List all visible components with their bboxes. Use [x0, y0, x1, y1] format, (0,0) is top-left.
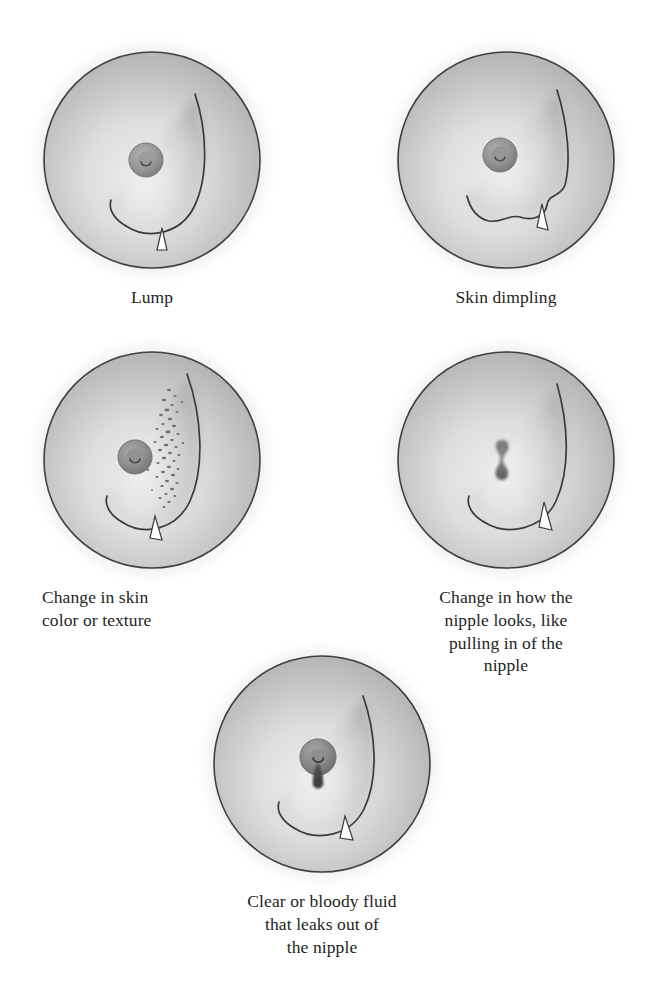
nipple-icon — [129, 143, 163, 177]
illustration-lump — [36, 44, 268, 276]
illustration-skin-dimpling — [390, 44, 622, 276]
breast-illustration-svg — [36, 344, 268, 576]
panel-skin-change: Change in skin color or texture — [36, 344, 268, 632]
illustration-nipple-discharge — [206, 648, 438, 880]
panel-caption: Change in skin color or texture — [36, 586, 268, 632]
nipple-icon — [483, 138, 517, 172]
panel-nipple-discharge: Clear or bloody fluid that leaks out of … — [206, 648, 438, 958]
panel-caption: Change in how the nipple looks, like pul… — [439, 586, 572, 677]
panel-caption: Skin dimpling — [456, 286, 557, 309]
breast-illustration-svg — [390, 344, 622, 576]
breast-illustration-svg — [36, 44, 268, 276]
panel-nipple-change: Change in how the nipple looks, like pul… — [390, 344, 622, 677]
illustration-skin-change — [36, 344, 268, 576]
illustration-nipple-change — [390, 344, 622, 576]
breast-illustration-svg — [206, 648, 438, 880]
figure-canvas: Lump — [0, 0, 651, 985]
panel-lump: Lump — [36, 44, 268, 309]
panel-caption: Clear or bloody fluid that leaks out of … — [247, 890, 396, 958]
panel-caption: Lump — [131, 286, 173, 309]
breast-illustration-svg — [390, 44, 622, 276]
nipple-icon — [118, 440, 152, 474]
panel-skin-dimpling: Skin dimpling — [390, 44, 622, 309]
